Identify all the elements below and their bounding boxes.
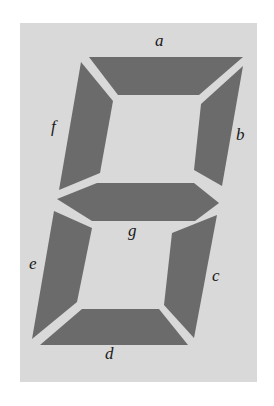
segment-g xyxy=(57,183,219,221)
seven-segment-display xyxy=(0,0,274,406)
segment-f xyxy=(59,62,113,190)
segment-c xyxy=(164,215,217,338)
label-e: e xyxy=(29,255,37,272)
label-d: d xyxy=(105,345,114,362)
label-a: a xyxy=(155,32,164,49)
label-b: b xyxy=(236,126,245,143)
label-g: g xyxy=(128,222,137,239)
label-c: c xyxy=(212,267,220,284)
label-f: f xyxy=(51,118,56,135)
segment-d xyxy=(40,309,188,345)
